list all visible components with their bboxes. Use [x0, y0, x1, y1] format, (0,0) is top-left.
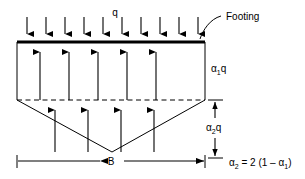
footing-leader-line: [200, 16, 221, 39]
equation-label: α2 = 2 (1 – α1): [229, 157, 291, 170]
applied-load-arrow-group: [27, 17, 198, 34]
lower-reaction-arrow-group: [55, 110, 154, 152]
upper-reaction-arrow-group: [40, 52, 156, 100]
applied-load-label: q: [112, 7, 118, 18]
upper-pressure-label: α1q: [211, 63, 226, 76]
diagram-canvas: q Footing α1q α2q B α2 = 2 (1 – α1): [0, 0, 305, 179]
footing-label: Footing: [226, 11, 259, 22]
wedge-outline: [17, 100, 205, 152]
lower-pressure-label: α2q: [206, 122, 221, 135]
width-dimension-label: B: [108, 156, 115, 167]
footing-stress-diagram: q Footing α1q α2q B α2 = 2 (1 – α1): [0, 0, 305, 179]
